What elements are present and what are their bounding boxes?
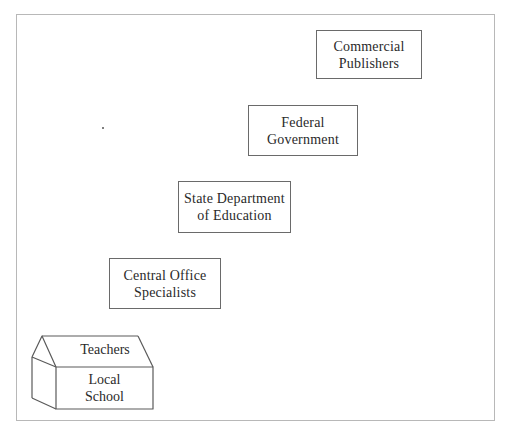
label-line: School [56, 388, 153, 405]
school-building-icon [0, 0, 506, 433]
label-line: Local [56, 371, 153, 388]
school-roof-label: Teachers [60, 341, 150, 358]
school-front-label: Local School [56, 371, 153, 405]
